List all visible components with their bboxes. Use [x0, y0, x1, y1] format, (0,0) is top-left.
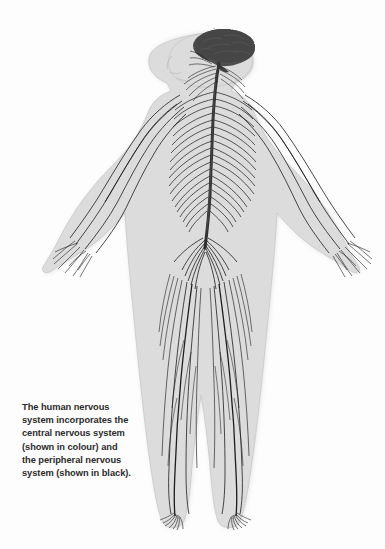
caption-line: the peripheral nervous — [22, 454, 162, 467]
caption-line: (shown in colour) and — [22, 441, 162, 454]
caption-line: central nervous system — [22, 427, 162, 440]
illustration-page: The human nervous system incorporates th… — [0, 0, 385, 549]
caption-line: The human nervous — [22, 401, 162, 414]
caption-line: system incorporates the — [22, 414, 162, 427]
caption-line: system (shown in black). — [22, 467, 162, 480]
figure-caption: The human nervous system incorporates th… — [22, 401, 162, 480]
